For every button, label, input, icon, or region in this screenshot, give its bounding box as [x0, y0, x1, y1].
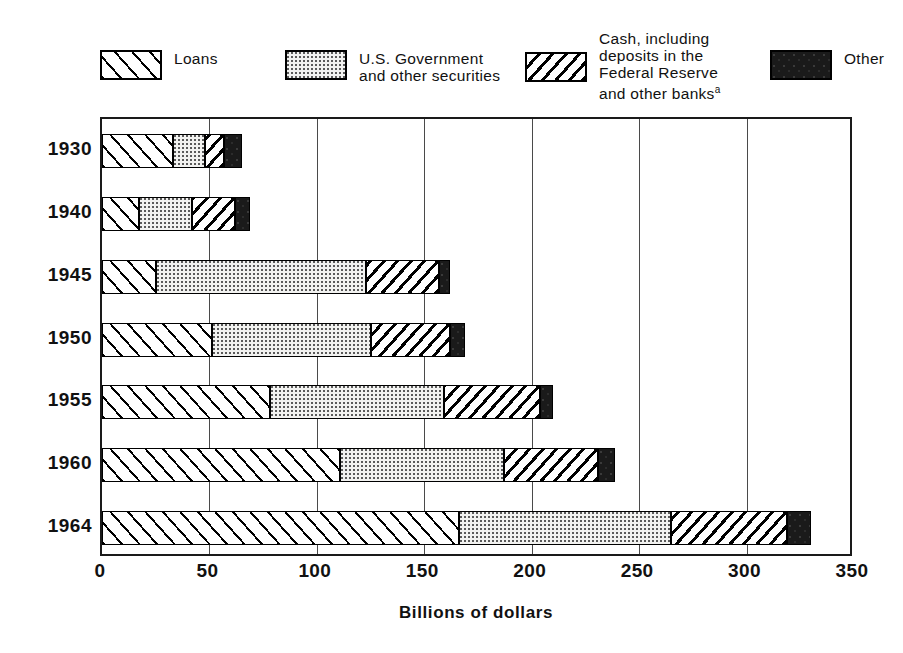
year-label-1945: 1945	[22, 264, 92, 286]
year-label-1930: 1930	[22, 138, 92, 160]
x-tick-200: 200	[513, 560, 546, 582]
bar-segment-1940-cash	[192, 197, 235, 231]
legend-swatch-other-icon	[770, 50, 832, 80]
chart-plot-area	[100, 117, 852, 556]
bar-segment-1955-securities	[270, 385, 444, 419]
x-tick-100: 100	[298, 560, 331, 582]
bar-segment-1950-securities	[212, 323, 371, 357]
bar-row-1950	[102, 323, 465, 357]
bar-segment-1960-securities	[340, 448, 503, 482]
x-axis-tick-labels: 050100150200250300350	[100, 560, 852, 590]
bar-segment-1945-securities	[156, 260, 367, 294]
year-label-1940: 1940	[22, 201, 92, 223]
bar-segment-1960-loans	[102, 448, 340, 482]
bar-segment-1964-cash	[671, 511, 787, 545]
bar-segment-1930-loans	[102, 134, 173, 168]
bar-segment-1964-other	[787, 511, 811, 545]
bar-segment-1955-loans	[102, 385, 270, 419]
legend-label-other: Other	[844, 50, 884, 67]
bar-segment-1930-securities	[173, 134, 205, 168]
bar-segment-1945-loans	[102, 260, 156, 294]
bar-segment-1955-other	[540, 385, 553, 419]
bar-segment-1930-other	[224, 134, 241, 168]
bar-segment-1950-cash	[371, 323, 450, 357]
bar-segment-1964-securities	[459, 511, 672, 545]
chart-bars	[102, 119, 850, 554]
legend-label-loans: Loans	[174, 50, 218, 67]
legend-footnote-marker-a: a	[715, 84, 721, 95]
x-tick-350: 350	[836, 560, 869, 582]
bar-row-1930	[102, 134, 242, 168]
bar-segment-1964-loans	[102, 511, 459, 545]
legend-swatch-securities-icon	[285, 50, 347, 80]
x-axis-title: Billions of dollars	[100, 603, 852, 623]
bar-row-1960	[102, 448, 615, 482]
x-tick-250: 250	[621, 560, 654, 582]
bar-segment-1945-other	[439, 260, 450, 294]
bar-row-1955	[102, 385, 553, 419]
chart-legend: Loans U.S. Government and other securiti…	[100, 26, 860, 106]
bar-segment-1960-cash	[504, 448, 599, 482]
year-label-1955: 1955	[22, 389, 92, 411]
x-tick-50: 50	[196, 560, 218, 582]
year-label-1960: 1960	[22, 452, 92, 474]
x-tick-0: 0	[95, 560, 106, 582]
bar-segment-1950-other	[450, 323, 465, 357]
bar-segment-1955-cash	[444, 385, 541, 419]
legend-label-cash: Cash, including deposits in the Federal …	[599, 30, 721, 102]
legend-item-other: Other	[770, 50, 884, 80]
bar-segment-1940-other	[235, 197, 250, 231]
x-tick-300: 300	[728, 560, 761, 582]
bar-row-1964	[102, 511, 811, 545]
bar-segment-1960-other	[598, 448, 615, 482]
legend-item-securities: U.S. Government and other securities	[285, 50, 500, 84]
bar-segment-1930-cash	[205, 134, 224, 168]
year-label-1950: 1950	[22, 327, 92, 349]
bar-segment-1940-loans	[102, 197, 139, 231]
bar-row-1940	[102, 197, 250, 231]
legend-item-cash: Cash, including deposits in the Federal …	[525, 30, 721, 102]
bar-row-1945	[102, 260, 450, 294]
legend-swatch-loans-icon	[100, 50, 162, 80]
legend-item-loans: Loans	[100, 50, 218, 80]
year-label-1964: 1964	[22, 515, 92, 537]
legend-swatch-cash-icon	[525, 52, 587, 82]
bar-segment-1950-loans	[102, 323, 212, 357]
bar-segment-1940-securities	[139, 197, 193, 231]
bar-segment-1945-cash	[366, 260, 439, 294]
y-axis-year-labels: 1930194019451950195519601964	[20, 117, 92, 556]
x-tick-150: 150	[406, 560, 439, 582]
legend-label-cash-text: Cash, including deposits in the Federal …	[599, 30, 718, 102]
legend-label-securities: U.S. Government and other securities	[359, 50, 500, 84]
